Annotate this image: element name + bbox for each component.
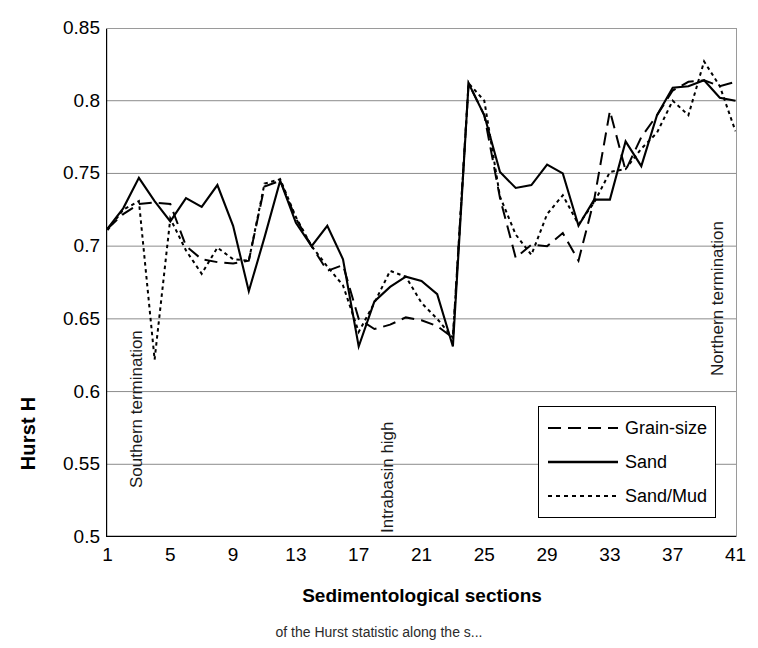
legend-swatch-dotted (547, 489, 619, 503)
annotation-intrabasin-high: Intrabasin high (378, 421, 398, 533)
y-tick-label: 0.55 (34, 454, 100, 473)
legend-item-grain-size[interactable]: Grain-size (547, 413, 707, 443)
x-tick-label: 29 (527, 545, 567, 564)
x-axis-tick-labels: 1591317212529333741 (0, 545, 758, 573)
series-line-sand (108, 80, 736, 346)
series-line-sand-mud (108, 61, 736, 359)
x-tick-label: 17 (339, 545, 379, 564)
hurst-figure: Hurst H 0.850.80.750.70.650.60.550.5 Sou… (0, 0, 758, 648)
series-lines (108, 61, 736, 359)
annotation-southern-termination: Southern termination (127, 330, 147, 488)
y-tick-label: 0.65 (34, 309, 100, 328)
annotation-northern-termination: Northern termination (708, 221, 728, 376)
legend-item-sand-mud[interactable]: Sand/Mud (547, 481, 707, 511)
x-tick-label: 25 (464, 545, 504, 564)
x-axis-title: Sedimentological sections (106, 585, 738, 607)
legend-swatch-dashed (547, 421, 619, 435)
legend-label: Grain-size (625, 418, 707, 439)
y-tick-label: 0.7 (34, 236, 100, 255)
legend-label: Sand (625, 452, 667, 473)
y-axis-tick-labels: 0.850.80.750.70.650.60.550.5 (28, 0, 100, 560)
legend-swatch-solid (547, 455, 619, 469)
y-tick-label: 0.5 (34, 527, 100, 546)
x-tick-label: 37 (653, 545, 693, 564)
x-tick-label: 5 (150, 545, 190, 564)
x-tick-label: 1 (88, 545, 128, 564)
figure-caption: of the Hurst statistic along the s... (0, 624, 758, 646)
x-tick-label: 13 (276, 545, 316, 564)
y-tick-label: 0.85 (34, 18, 100, 37)
series-line-grain-size (108, 80, 736, 337)
y-tick-label: 0.6 (34, 382, 100, 401)
x-tick-label: 9 (213, 545, 253, 564)
y-tick-label: 0.75 (34, 163, 100, 182)
y-tick-label: 0.8 (34, 91, 100, 110)
x-tick-label: 41 (716, 545, 756, 564)
legend-item-sand[interactable]: Sand (547, 447, 667, 477)
x-tick-label: 33 (590, 545, 630, 564)
legend: Grain-size Sand Sand/Mud (538, 406, 716, 518)
legend-label: Sand/Mud (625, 486, 707, 507)
x-tick-label: 21 (402, 545, 442, 564)
